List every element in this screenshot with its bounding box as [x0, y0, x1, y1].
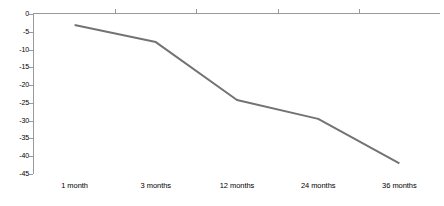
- series-layer: [0, 0, 444, 206]
- series-line: [75, 25, 400, 163]
- line-chart: 0-5-10-15-20-25-30-35-40-45 1 month3 mon…: [0, 0, 444, 206]
